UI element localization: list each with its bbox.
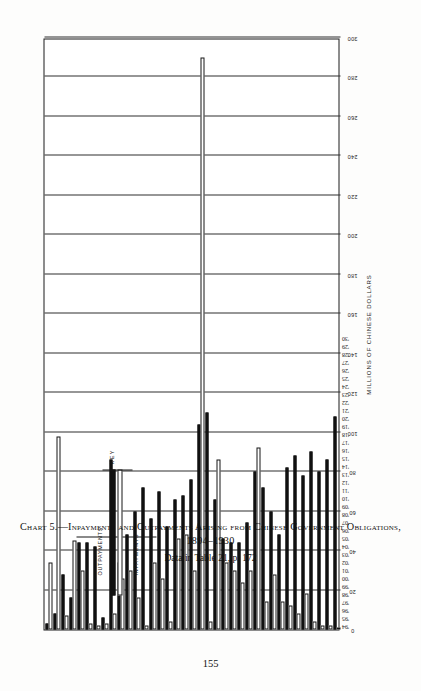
inpayments-bar xyxy=(336,628,339,630)
year-tick-label: '97 xyxy=(342,600,349,606)
gridline xyxy=(44,37,340,38)
year-tick-label: '11 xyxy=(342,488,349,494)
inpayments-bar xyxy=(96,626,99,630)
inpayments-bar xyxy=(264,602,267,630)
inpayments-bar xyxy=(240,582,243,629)
inpayments-bar xyxy=(280,602,283,630)
inpayments-bar xyxy=(48,562,51,629)
year-tick-label: '15 xyxy=(342,456,349,462)
inpayments-bar xyxy=(328,626,331,630)
inpayments-bar xyxy=(248,570,251,629)
year-tick-label: '22 xyxy=(342,400,349,406)
inpayments-bar xyxy=(168,622,171,630)
year-tick-label: '19 xyxy=(342,424,349,430)
inpayments-bar xyxy=(64,616,67,630)
year-tick-label: '94 xyxy=(342,624,349,630)
inpayments-bar xyxy=(312,622,315,630)
year-tick-label: '01 xyxy=(342,568,349,574)
inpayments-bar xyxy=(320,626,323,630)
year-tick-label: '23 xyxy=(342,392,349,398)
inpayments-bar xyxy=(104,624,107,630)
year-tick-label: '27 xyxy=(342,360,349,366)
book-page: 0204060801001201401601802002202402602803… xyxy=(0,0,421,691)
figure-caption: Chart 5.—Inpayments and Outpayments Aris… xyxy=(0,520,421,565)
year-tick-label: '96 xyxy=(342,608,349,614)
year-tick-label: '18 xyxy=(342,432,349,438)
year-tick-label: '16 xyxy=(342,448,349,454)
year-tick-label: '14 xyxy=(342,464,349,470)
year-tick-label: '95 xyxy=(342,616,349,622)
year-tick-label: '09 xyxy=(342,504,349,510)
year-tick-label: '20 xyxy=(342,416,349,422)
year-tick-label: '30 xyxy=(342,336,349,342)
year-tick-label: '13 xyxy=(342,472,349,478)
caption-source: Data in Table 21, p. 172 xyxy=(16,551,405,565)
year-tick-label: '99 xyxy=(342,584,349,590)
year-tick-label: '26 xyxy=(342,368,349,374)
inpayments-bar xyxy=(288,606,291,630)
caption-title: Chart 5.—Inpayments and Outpayments Aris… xyxy=(16,520,405,549)
inpayments-bar xyxy=(232,570,235,629)
outpayments-bar xyxy=(53,614,56,630)
inpayments-bar xyxy=(304,594,307,630)
year-tick-label: '21 xyxy=(342,408,349,414)
outpayments-bar xyxy=(45,624,48,630)
inpayments-bar xyxy=(224,562,227,629)
outpayments-bar xyxy=(101,618,104,630)
year-tick-label: '98 xyxy=(342,592,349,598)
key-title: KEY xyxy=(108,449,114,464)
year-tick-label: '28 xyxy=(342,352,349,358)
year-tick-label: '00 xyxy=(342,576,349,582)
page-number: 155 xyxy=(0,658,421,669)
inpayments-bar xyxy=(88,624,91,630)
year-tick-label: '08 xyxy=(342,512,349,518)
inpayments-bar xyxy=(208,622,211,630)
year-tick-label: '29 xyxy=(342,344,349,350)
year-tick-label: '25 xyxy=(342,376,349,382)
inpayments-bar xyxy=(144,626,147,630)
inpayments-bar xyxy=(296,614,299,630)
year-tick-label: '24 xyxy=(342,384,349,390)
year-tick-label: '17 xyxy=(342,440,349,446)
year-tick-label: '12 xyxy=(342,480,349,486)
key-end-cap xyxy=(102,470,132,471)
inpayments-bar xyxy=(112,614,115,630)
inpayments-bar xyxy=(272,574,275,629)
year-tick-label: '10 xyxy=(342,496,349,502)
outpayments-bar xyxy=(61,574,64,629)
inpayments-bar xyxy=(192,570,195,629)
